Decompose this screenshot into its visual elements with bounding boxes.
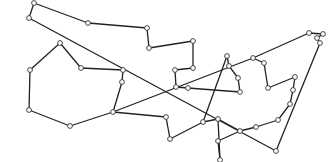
graph-node xyxy=(216,117,221,122)
graph-edge xyxy=(34,3,88,23)
graph-edge xyxy=(264,63,268,88)
graph-edge xyxy=(149,41,193,48)
graph-edge xyxy=(218,131,240,141)
graph-node xyxy=(288,102,293,107)
graph-node xyxy=(121,68,126,73)
graph-node xyxy=(318,41,323,46)
graph-node xyxy=(145,26,150,31)
graph-node xyxy=(236,76,241,81)
graph-node xyxy=(147,46,152,51)
graph-node xyxy=(32,1,37,6)
graph-node xyxy=(238,90,243,95)
graph-node xyxy=(225,54,230,59)
graph-edge xyxy=(113,58,253,112)
graph-node xyxy=(191,39,196,44)
graph-node xyxy=(315,36,320,41)
graph-node xyxy=(216,139,221,144)
graph-node xyxy=(274,149,279,154)
graph-edge xyxy=(70,112,113,126)
graph-node xyxy=(238,129,243,134)
graph-edge xyxy=(88,23,147,28)
graph-node xyxy=(293,75,298,80)
graph-edge xyxy=(268,77,295,88)
graph-node xyxy=(262,61,267,66)
graph-edge xyxy=(29,70,30,110)
graph-node xyxy=(27,16,32,21)
graph-node xyxy=(173,68,178,73)
graph-node xyxy=(321,32,326,37)
graph-node xyxy=(111,110,116,115)
graph-node xyxy=(79,66,84,71)
graph-node xyxy=(186,86,191,91)
graph-edge xyxy=(218,119,240,131)
graph-node xyxy=(227,64,232,69)
graph-edge xyxy=(113,112,166,117)
tour-graph-diagram xyxy=(0,0,336,162)
graph-edge xyxy=(81,68,123,70)
graph-edge xyxy=(253,33,309,58)
graph-edges xyxy=(29,3,323,160)
graph-edge xyxy=(29,110,70,126)
graph-node xyxy=(291,88,296,93)
graph-node xyxy=(191,66,196,71)
graph-node xyxy=(68,124,73,129)
graph-node xyxy=(86,21,91,26)
graph-edge xyxy=(166,117,170,139)
graph-node xyxy=(201,120,206,125)
graph-node xyxy=(266,86,271,91)
graph-node xyxy=(58,41,63,46)
graph-node xyxy=(307,31,312,36)
graph-node xyxy=(168,137,173,142)
graph-edge xyxy=(60,43,81,68)
graph-node xyxy=(276,118,281,123)
graph-node xyxy=(254,125,259,130)
graph-node xyxy=(28,68,33,73)
graph-edge xyxy=(113,82,122,112)
graph-edge xyxy=(147,28,149,48)
graph-node xyxy=(120,80,125,85)
graph-edge xyxy=(30,43,60,70)
graph-edge xyxy=(256,120,278,127)
graph-node xyxy=(27,108,32,113)
graph-edge xyxy=(276,43,320,151)
graph-node xyxy=(164,115,169,120)
graph-node xyxy=(251,56,256,61)
graph-node xyxy=(174,85,179,90)
graph-node xyxy=(218,158,223,162)
graph-edge xyxy=(170,122,203,139)
graph-edge xyxy=(278,104,290,120)
